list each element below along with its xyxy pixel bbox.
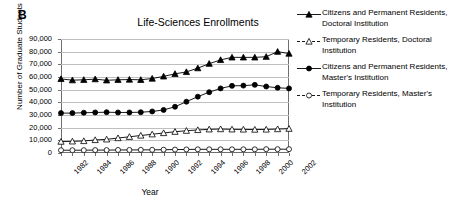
x-axis-tick-mark xyxy=(129,153,130,156)
data-point-open-circle xyxy=(93,148,98,153)
y-axis-tick-label: 20,000 xyxy=(29,124,52,132)
data-point-filled-triangle xyxy=(183,69,189,75)
data-point-open-circle xyxy=(264,147,269,152)
data-point-open-circle xyxy=(287,147,292,152)
data-point-open-triangle xyxy=(306,38,312,44)
data-point-open-circle xyxy=(218,147,223,152)
x-axis-tick-mark xyxy=(84,153,85,156)
legend-item-2[interactable]: Citizens and Permanent Residents, Master… xyxy=(296,62,448,83)
x-axis-tick-mark xyxy=(243,153,244,156)
legend-item-1[interactable]: Temporary Residents, Doctoral Institutio… xyxy=(296,35,448,56)
data-point-open-circle xyxy=(138,147,143,152)
data-point-filled-circle xyxy=(307,66,312,71)
data-point-open-circle xyxy=(127,147,132,152)
data-point-filled-circle xyxy=(104,110,109,115)
filled-triangle-icon xyxy=(296,9,322,20)
data-point-open-circle xyxy=(70,148,75,153)
chart-figure: B Life-Sciences Enrollments Number of Gr… xyxy=(0,0,451,208)
x-axis-tick-mark xyxy=(221,153,222,156)
data-point-open-circle xyxy=(275,147,280,152)
data-point-open-circle xyxy=(104,148,109,153)
data-point-filled-triangle xyxy=(206,61,212,67)
legend-item-0[interactable]: Citizens and Permanent Residents, Doctor… xyxy=(296,8,448,29)
x-axis-tick-mark xyxy=(255,153,256,156)
data-point-filled-triangle xyxy=(195,65,201,71)
legend-label: Citizens and Permanent Residents, Doctor… xyxy=(322,8,448,29)
x-axis-tick-mark xyxy=(232,153,233,156)
data-point-filled-circle xyxy=(287,86,292,91)
x-axis-tick-mark xyxy=(266,153,267,156)
data-point-filled-circle xyxy=(173,104,178,109)
y-axis-tick-label: 40,000 xyxy=(29,98,52,106)
data-point-filled-triangle xyxy=(275,49,281,55)
x-axis-tick-label: 1984 xyxy=(95,158,113,176)
x-axis-tick-mark xyxy=(72,153,73,156)
data-point-open-circle xyxy=(252,147,257,152)
series-filled-triangle xyxy=(58,49,292,83)
x-axis-tick-mark xyxy=(209,153,210,156)
series-filled-circle xyxy=(59,82,292,115)
data-point-filled-circle xyxy=(207,90,212,95)
data-point-filled-circle xyxy=(184,99,189,104)
legend: Citizens and Permanent Residents, Doctor… xyxy=(296,8,448,116)
x-axis-tick-label: 1986 xyxy=(117,158,135,176)
x-axis-tick-mark xyxy=(289,153,290,156)
y-axis-tick-label: 10,000 xyxy=(29,136,52,144)
chart-title: Life-Sciences Enrollments xyxy=(98,16,298,28)
data-point-open-circle xyxy=(59,148,64,153)
data-point-open-circle xyxy=(207,147,212,152)
data-point-filled-circle xyxy=(127,110,132,115)
data-point-filled-circle xyxy=(230,83,235,88)
x-axis-tick-mark xyxy=(107,153,108,156)
legend-label: Temporary Residents, Doctoral Institutio… xyxy=(322,35,448,56)
x-axis-tick-label: 1982 xyxy=(72,158,90,176)
x-axis-tick-mark xyxy=(175,153,176,156)
legend-item-3[interactable]: Temporary Residents, Master's Institutio… xyxy=(296,89,448,110)
x-axis-tick-label: 1996 xyxy=(231,158,249,176)
data-point-filled-circle xyxy=(81,110,86,115)
legend-label: Temporary Residents, Master's Institutio… xyxy=(322,89,448,110)
open-triangle-icon xyxy=(296,36,322,47)
y-axis-tick-label: 90,000 xyxy=(29,35,52,43)
x-axis-tick-label: 2002 xyxy=(300,158,318,176)
data-point-open-circle xyxy=(307,93,312,98)
x-axis-tick-mark xyxy=(95,153,96,156)
data-point-filled-circle xyxy=(70,111,75,116)
y-axis-tick-label: 80,000 xyxy=(29,48,52,56)
data-point-filled-circle xyxy=(150,109,155,114)
data-point-open-circle xyxy=(81,148,86,153)
data-point-filled-circle xyxy=(264,84,269,89)
x-axis-tick-mark xyxy=(278,153,279,156)
data-point-open-circle xyxy=(116,147,121,152)
legend-label: Citizens and Permanent Residents, Master… xyxy=(322,62,448,83)
x-axis-tick-mark xyxy=(118,153,119,156)
plot-area xyxy=(61,39,289,153)
series-open-triangle xyxy=(58,126,292,145)
y-axis-tick-label: 30,000 xyxy=(29,111,52,119)
y-axis-tick-label: 70,000 xyxy=(29,60,52,68)
data-point-filled-circle xyxy=(241,83,246,88)
data-point-open-circle xyxy=(241,147,246,152)
x-axis-tick-mark xyxy=(152,153,153,156)
data-point-filled-circle xyxy=(252,82,257,87)
x-axis-tick-label: 1988 xyxy=(140,158,158,176)
x-axis-tick-mark xyxy=(164,153,165,156)
data-point-open-circle xyxy=(150,147,155,152)
data-point-open-circle xyxy=(161,147,166,152)
data-point-filled-circle xyxy=(195,94,200,99)
data-point-open-circle xyxy=(184,147,189,152)
series-open-circle xyxy=(59,147,292,153)
data-point-filled-circle xyxy=(161,107,166,112)
data-point-filled-circle xyxy=(138,110,143,115)
x-axis-tick-label: 1992 xyxy=(186,158,204,176)
data-point-open-circle xyxy=(195,147,200,152)
data-point-filled-circle xyxy=(275,85,280,90)
y-axis-tick-label: 50,000 xyxy=(29,86,52,94)
x-axis-tick-mark xyxy=(141,153,142,156)
data-point-filled-circle xyxy=(93,110,98,115)
x-axis-tick-label: 1998 xyxy=(254,158,272,176)
x-axis-tick-label: 1994 xyxy=(209,158,227,176)
open-circle-icon xyxy=(296,90,322,101)
x-axis-ticks: 1982198419861988199019921994199619982000… xyxy=(61,153,289,193)
x-axis-tick-mark xyxy=(198,153,199,156)
